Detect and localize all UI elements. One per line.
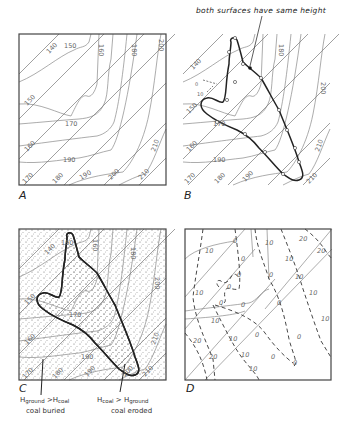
svg-text:0: 0 bbox=[227, 283, 231, 291]
panel-b: 140 180 200 150 170 160 190 170 180 190 … bbox=[183, 34, 339, 185]
svg-text:10: 10 bbox=[195, 289, 203, 297]
svg-text:210: 210 bbox=[149, 138, 161, 152]
panel-label-c: C bbox=[19, 382, 27, 395]
caption-coal-buried: Hground >Hcoal coal buried bbox=[20, 395, 69, 416]
svg-text:180: 180 bbox=[213, 171, 227, 185]
svg-text:0: 0 bbox=[293, 359, 297, 367]
panel-a: 140 150 160 180 200 150 170 160 190 170 … bbox=[19, 34, 175, 185]
svg-text:200: 200 bbox=[107, 167, 121, 181]
svg-text:0: 0 bbox=[255, 331, 259, 339]
svg-text:170: 170 bbox=[65, 120, 77, 128]
svg-text:10: 10 bbox=[211, 317, 219, 325]
svg-text:210: 210 bbox=[305, 171, 319, 185]
svg-text:170: 170 bbox=[21, 171, 35, 185]
svg-text:150: 150 bbox=[64, 42, 76, 50]
svg-text:180: 180 bbox=[130, 44, 138, 56]
svg-text:0: 0 bbox=[297, 333, 301, 341]
svg-text:200: 200 bbox=[157, 39, 165, 51]
svg-text:0: 0 bbox=[271, 353, 275, 361]
svg-text:10: 10 bbox=[295, 273, 303, 281]
panel-label-d: D bbox=[186, 382, 194, 395]
panel-c: 140 150 160 180 200 150 170 160 190 170 … bbox=[19, 229, 175, 380]
svg-text:140: 140 bbox=[45, 41, 59, 55]
svg-text:180: 180 bbox=[277, 44, 285, 56]
svg-text:160: 160 bbox=[23, 139, 37, 153]
svg-text:0: 0 bbox=[237, 271, 241, 279]
svg-text:180: 180 bbox=[51, 171, 65, 185]
svg-text:0: 0 bbox=[219, 299, 223, 307]
svg-text:10: 10 bbox=[265, 239, 273, 247]
svg-text:0: 0 bbox=[241, 301, 245, 309]
svg-text:10: 10 bbox=[285, 255, 293, 263]
svg-text:210: 210 bbox=[313, 138, 325, 152]
svg-text:10: 10 bbox=[241, 351, 249, 359]
svg-text:160: 160 bbox=[97, 44, 105, 56]
svg-text:190: 190 bbox=[63, 156, 75, 164]
same-height-point bbox=[248, 66, 252, 70]
svg-text:170: 170 bbox=[69, 311, 81, 319]
panel-label-b: B bbox=[184, 189, 192, 202]
svg-text:170: 170 bbox=[183, 171, 197, 185]
svg-text:180: 180 bbox=[129, 247, 137, 259]
svg-text:190: 190 bbox=[81, 353, 93, 361]
caption-coal-eroded: Hcoal > Hground coal eroded bbox=[97, 395, 152, 416]
svg-text:160: 160 bbox=[91, 239, 99, 251]
svg-text:20: 20 bbox=[209, 353, 217, 361]
svg-text:190: 190 bbox=[213, 156, 225, 164]
figure-canvas: 140 150 160 180 200 150 170 160 190 170 … bbox=[0, 0, 347, 437]
svg-text:200: 200 bbox=[153, 277, 161, 289]
svg-text:170: 170 bbox=[213, 120, 225, 128]
svg-text:0: 0 bbox=[277, 299, 281, 307]
svg-text:20: 20 bbox=[193, 337, 201, 345]
svg-text:10: 10 bbox=[205, 247, 213, 255]
svg-text:10: 10 bbox=[229, 335, 237, 343]
svg-text:200: 200 bbox=[319, 82, 327, 94]
panel-label-a: A bbox=[19, 189, 27, 202]
svg-text:10: 10 bbox=[321, 315, 329, 323]
svg-text:10: 10 bbox=[197, 91, 203, 97]
svg-text:10: 10 bbox=[249, 365, 257, 373]
svg-text:140: 140 bbox=[189, 57, 203, 71]
svg-text:10: 10 bbox=[309, 289, 317, 297]
svg-text:160: 160 bbox=[185, 139, 199, 153]
svg-text:210: 210 bbox=[137, 167, 151, 181]
svg-text:0: 0 bbox=[269, 271, 273, 279]
svg-text:190: 190 bbox=[78, 169, 93, 182]
svg-text:150: 150 bbox=[61, 239, 73, 247]
svg-text:0: 0 bbox=[195, 81, 198, 87]
panel-d: 10 0 10 20 20 0 10 0 0 10 10 10 0 0 0 10… bbox=[185, 229, 332, 380]
svg-text:0: 0 bbox=[241, 255, 245, 263]
geologic-contour-figure: both surfaces have same height bbox=[0, 0, 347, 437]
svg-text:150: 150 bbox=[185, 101, 199, 115]
svg-text:20: 20 bbox=[317, 247, 325, 255]
svg-text:190: 190 bbox=[241, 169, 255, 183]
svg-text:0: 0 bbox=[233, 237, 237, 245]
annotation-pointer bbox=[250, 16, 262, 66]
svg-text:20: 20 bbox=[299, 235, 307, 243]
